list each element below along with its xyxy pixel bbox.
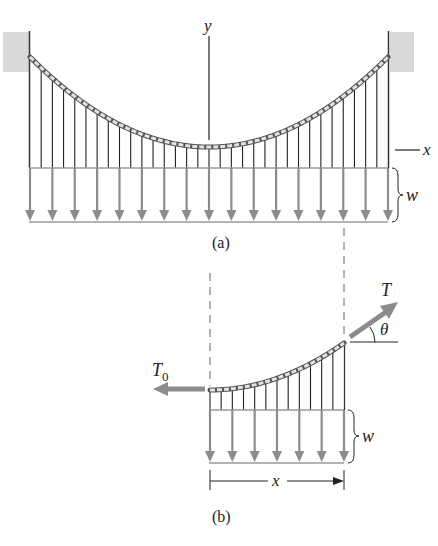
dimension-arrowhead [333, 477, 344, 485]
load-arrowhead [92, 210, 102, 221]
load-brace [392, 168, 403, 222]
load-arrowhead [294, 451, 304, 462]
caption-b: (b) [212, 508, 231, 526]
load-arrowhead [182, 210, 192, 221]
load-arrowhead [250, 451, 260, 462]
load-arrowhead [361, 210, 371, 221]
load-arrowhead [317, 451, 327, 462]
y-axis-label: y [202, 16, 212, 35]
horizontal-tension-label: T0 [152, 360, 169, 384]
load-arrowhead [204, 210, 214, 221]
figure-b: T0 T θ w x (b) [152, 280, 398, 526]
figure-a: y x w (a) [3, 16, 431, 252]
load-arrowhead [137, 210, 147, 221]
load-arrowhead [227, 451, 237, 462]
tension-label: T [381, 280, 393, 300]
load-brace [348, 410, 359, 463]
load-arrowhead [383, 210, 393, 221]
load-label-w: w [406, 185, 418, 205]
load-arrowhead [316, 210, 326, 221]
load-arrowhead [70, 210, 80, 221]
load-arrowhead [294, 210, 304, 221]
load-arrowhead [338, 210, 348, 221]
load-arrowhead [272, 451, 282, 462]
load-arrowhead [249, 210, 259, 221]
distributed-load-arrows [25, 168, 393, 221]
load-arrowhead [339, 451, 349, 462]
distributed-load-arrows [205, 410, 349, 462]
load-label-w: w [362, 426, 374, 446]
left-anchor-block [3, 32, 29, 72]
load-arrowhead [25, 210, 35, 221]
horizontal-tension-arrowhead [153, 382, 168, 396]
load-arrowhead [226, 210, 236, 221]
load-arrowhead [205, 451, 215, 462]
x-axis-label: x [422, 140, 431, 159]
span-label-x: x [271, 471, 280, 490]
caption-a: (a) [212, 234, 230, 252]
right-anchor-block [390, 32, 414, 72]
load-arrowhead [271, 210, 281, 221]
angle-label-theta: θ [380, 320, 388, 339]
load-arrowhead [159, 210, 169, 221]
cable-diagram: y x w (a) T0 T θ [0, 0, 438, 546]
angle-arc [370, 327, 375, 342]
load-arrowhead [47, 210, 57, 221]
load-arrowhead [115, 210, 125, 221]
